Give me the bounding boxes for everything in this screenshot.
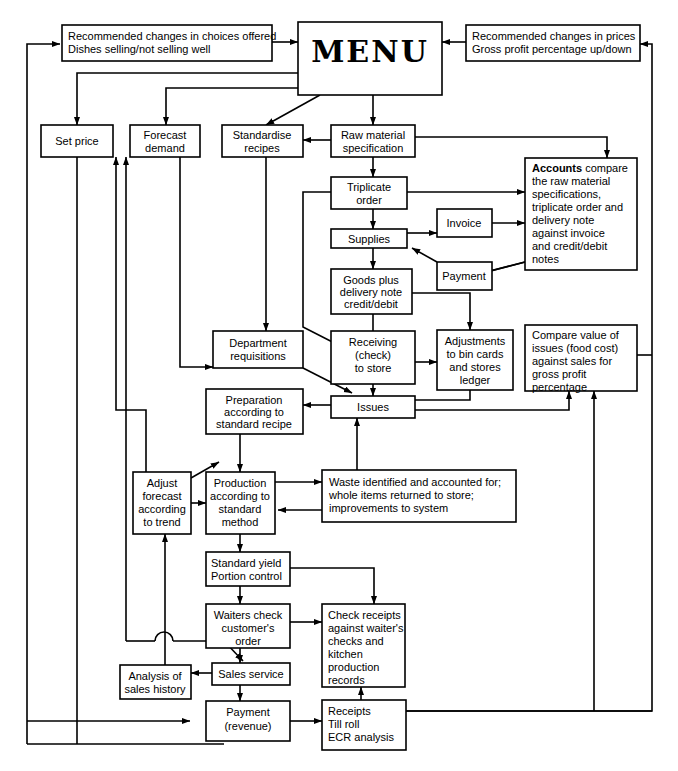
receipts-line3: ECR analysis [328, 731, 395, 743]
node-receipts-till-roll[interactable]: Receipts Till roll ECR analysis [322, 700, 406, 750]
node-accounts-compare[interactable]: Accounts compare the raw material specif… [525, 158, 637, 270]
edge-menu-setprice [77, 73, 298, 125]
node-supplies[interactable]: Supplies [331, 229, 407, 248]
node-recommended-prices[interactable]: Recommended changes in prices Gross prof… [466, 25, 640, 61]
adjustfc-line4: to trend [143, 516, 180, 528]
accounts-line3: specifications, [532, 188, 601, 200]
flowchart-canvas: Recommended changes in choices offered D… [0, 0, 678, 771]
standardise-line1: Standardise [233, 129, 292, 141]
triplicate-line2: order [356, 194, 382, 206]
node-set-price[interactable]: Set price [41, 125, 113, 157]
edge-rawmaterial-accounts [415, 137, 607, 158]
menu-title: MENU [311, 34, 429, 69]
compare-line3: against sales for [532, 355, 612, 367]
node-goods-delivery-note[interactable]: Goods plus delivery note credit/debit [331, 269, 412, 314]
waiters-line2: customer's [222, 622, 275, 634]
salessrv-line1: Sales service [218, 668, 283, 680]
paymentrev-line2: (revenue) [224, 720, 271, 732]
node-issues[interactable]: Issues [331, 396, 415, 418]
node-invoice[interactable]: Invoice [437, 209, 492, 237]
flowchart-svg: Recommended changes in choices offered D… [0, 0, 678, 771]
triplicate-line1: Triplicate [347, 181, 391, 193]
accounts-line6: against invoice [532, 227, 605, 239]
edge-forecast-deptreq [180, 157, 213, 367]
adjustfc-line3: according [138, 503, 186, 515]
production-line2: according to [210, 490, 270, 502]
adjustments-line3: and stores [449, 361, 501, 373]
node-check-receipts[interactable]: Check receipts against waiter's checks a… [322, 604, 405, 687]
node-preparation-standard-recipe[interactable]: Preparation according to standard recipe [206, 389, 303, 434]
checkrec-line1: Check receipts [328, 609, 401, 621]
rawmaterial-line2: specification [343, 142, 404, 154]
compare-line2: issues (food cost) [532, 342, 618, 354]
recchoices-line1: Recommended changes in choices offered [68, 30, 276, 42]
node-receiving-to-store[interactable]: Receiving (check) to store [331, 331, 415, 384]
waste-line2: whole items returned to store; [328, 489, 474, 501]
receiving-line1: Receiving [349, 336, 397, 348]
node-adjustments-bin-cards[interactable]: Adjustments to bin cards and stores ledg… [437, 330, 513, 390]
accounts-line4: triplicate order and [532, 201, 623, 213]
checkrec-line4: kitchen [328, 648, 363, 660]
accounts-line8: notes [532, 253, 559, 265]
deptreq-line2: requisitions [230, 350, 286, 362]
node-compare-value-issues[interactable]: Compare value of issues (food cost) agai… [525, 325, 637, 393]
adjustments-line4: ledger [460, 374, 491, 386]
node-production-standard-method[interactable]: Production according to standard method [206, 472, 275, 534]
receipts-line1: Receipts [328, 705, 371, 717]
edge-menu-standardise [266, 95, 320, 125]
supplies-line1: Supplies [348, 233, 391, 245]
rawmaterial-line1: Raw material [341, 129, 405, 141]
node-recommended-choices[interactable]: Recommended changes in choices offered D… [62, 25, 276, 61]
recprices-line2: Gross profit percentage up/down [472, 43, 632, 55]
production-line3: standard [219, 503, 262, 515]
node-forecast-demand[interactable]: Forecast demand [130, 125, 200, 157]
receiving-line3: to store [355, 362, 392, 374]
deptreq-line1: Department [229, 337, 286, 349]
node-triplicate-order[interactable]: Triplicate order [331, 177, 407, 209]
forecast-line1: Forecast [144, 129, 187, 141]
node-department-requisitions[interactable]: Department requisitions [213, 331, 303, 368]
analysis-line1: Analysis of [128, 670, 182, 682]
node-raw-material-specification[interactable]: Raw material specification [331, 125, 415, 157]
analysis-line2: sales history [124, 683, 186, 695]
node-standard-yield-portion-control[interactable]: Standard yield Portion control [206, 552, 290, 586]
paymentrev-line1: Payment [226, 706, 269, 718]
checkrec-line5: production [328, 661, 379, 673]
standardise-line2: recipes [244, 142, 280, 154]
stdyield-line1: Standard yield [211, 557, 281, 569]
production-line1: Production [214, 477, 267, 489]
node-standardise-recipes[interactable]: Standardise recipes [222, 125, 303, 157]
accounts-line1: Accounts compare [532, 162, 628, 174]
preparation-line3: standard recipe [216, 418, 292, 430]
node-adjust-forecast-trend[interactable]: Adjust forecast according to trend [133, 472, 191, 534]
accounts-rest: compare [582, 162, 628, 174]
production-line4: method [222, 516, 259, 528]
node-payment-revenue[interactable]: Payment (revenue) [206, 701, 290, 741]
forecast-line2: demand [145, 142, 185, 154]
node-analysis-sales-history[interactable]: Analysis of sales history [120, 665, 191, 699]
waiters-line1: Waiters check [214, 609, 283, 621]
goods-line1: Goods plus [343, 274, 399, 286]
node-waste-identified[interactable]: Waste identified and accounted for; whol… [322, 470, 516, 522]
node-payment-supplier[interactable]: Payment [437, 262, 492, 290]
waste-line1: Waste identified and accounted for; [329, 476, 501, 488]
accounts-line2: the raw material [532, 175, 610, 187]
node-sales-service[interactable]: Sales service [212, 663, 290, 685]
edge-payment-supplies [412, 248, 437, 262]
goods-line2: delivery note [340, 286, 402, 298]
checkrec-line3: checks and [328, 635, 384, 647]
compare-line1: Compare value of [532, 329, 620, 341]
setprice-line1: Set price [55, 135, 98, 147]
waiters-line3: order [235, 635, 261, 647]
adjustments-line1: Adjustments [445, 335, 506, 347]
invoice-line1: Invoice [447, 217, 482, 229]
accounts-line5: delivery note [532, 214, 594, 226]
edge-adjustfc-forecast [116, 157, 146, 472]
edge-goods-adjustments [412, 293, 470, 330]
paymentsup-line1: Payment [442, 270, 485, 282]
node-waiters-check-order[interactable]: Waiters check customer's order [206, 604, 290, 648]
adjustfc-line1: Adjust [147, 477, 178, 489]
adjustfc-line2: forecast [142, 490, 181, 502]
node-menu[interactable]: MENU [298, 22, 442, 95]
edge-menu-forecast [166, 88, 298, 125]
